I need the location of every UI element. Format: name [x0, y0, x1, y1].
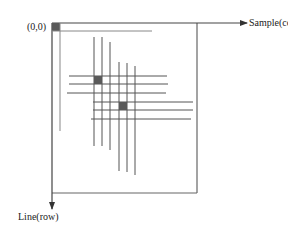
- intersection-pixel-1: [94, 76, 102, 84]
- sample-axis-label: Sample(col): [249, 17, 288, 29]
- image-grid-diagram: (0,0) Sample(col) Line(row): [0, 0, 288, 234]
- horizontal-lines-group-1: [67, 76, 168, 93]
- origin-label: (0,0): [27, 21, 46, 33]
- origin-pixel: [52, 23, 60, 31]
- line-axis-label: Line(row): [18, 211, 59, 223]
- intersection-pixel-2: [119, 102, 127, 110]
- horizontal-lines-group-2: [91, 102, 193, 119]
